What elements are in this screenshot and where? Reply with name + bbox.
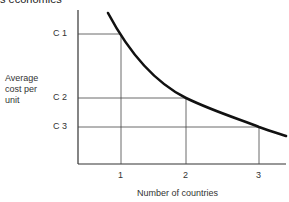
x-axis-label: Number of countries — [137, 188, 218, 198]
x-tick-2: 2 — [183, 170, 188, 180]
average-cost-curve — [108, 13, 286, 136]
y-axis-label-line2: cost per — [5, 84, 65, 95]
y-tick-c1: C 1 — [53, 28, 67, 38]
y-axis-label-line1: Average — [5, 73, 65, 84]
y-tick-c3: C 3 — [53, 121, 67, 131]
x-tick-3: 3 — [256, 170, 261, 180]
y-axis-label-line3: unit — [5, 95, 65, 106]
x-tick-1: 1 — [118, 170, 123, 180]
y-axis-label: Average cost per unit — [5, 73, 65, 106]
